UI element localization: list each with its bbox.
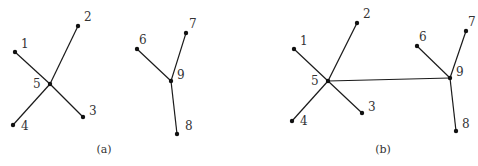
edge-2-5: [50, 26, 78, 84]
node-label: 6: [139, 33, 147, 47]
panel-caption: (a): [96, 143, 111, 156]
node-5: [48, 82, 52, 86]
edge-4-5: [292, 81, 328, 121]
edge-4-5: [13, 84, 50, 125]
node-label: 1: [21, 37, 29, 51]
node-4: [290, 119, 294, 123]
edge-5-9: [328, 78, 450, 81]
node-label: 8: [185, 119, 193, 133]
node-1: [292, 47, 296, 51]
edge-2-5: [328, 23, 357, 81]
edge-8-9: [171, 81, 177, 134]
node-label: 2: [84, 10, 92, 24]
edge-8-9: [450, 78, 456, 131]
node-label: 3: [368, 100, 376, 114]
node-7: [464, 29, 468, 33]
node-3: [360, 111, 364, 115]
node-2: [76, 24, 80, 28]
node-label: 7: [468, 15, 476, 29]
node-label: 1: [300, 34, 308, 48]
panel-a: 123456789(a): [11, 10, 197, 156]
edge-6-9: [137, 49, 171, 81]
node-label: 8: [462, 117, 470, 131]
node-6: [415, 44, 419, 48]
node-label: 3: [89, 104, 97, 118]
node-9: [169, 79, 173, 83]
node-1: [13, 50, 17, 54]
node-8: [175, 132, 179, 136]
node-6: [135, 47, 139, 51]
node-label: 9: [177, 68, 185, 82]
node-3: [81, 115, 85, 119]
edge-3-5: [328, 81, 362, 113]
node-8: [454, 129, 458, 133]
node-label: 9: [456, 65, 464, 79]
panel-b: 123456789(b): [290, 7, 476, 156]
panel-caption: (b): [375, 143, 391, 156]
node-9: [448, 76, 452, 80]
graph-diagram: 123456789(a) 123456789(b): [0, 0, 478, 166]
node-label: 4: [21, 119, 29, 133]
node-label: 7: [189, 17, 197, 31]
node-label: 5: [33, 77, 41, 91]
edge-6-9: [417, 46, 450, 78]
node-4: [11, 123, 15, 127]
node-2: [355, 21, 359, 25]
node-label: 2: [363, 7, 371, 21]
node-7: [184, 31, 188, 35]
edge-3-5: [50, 84, 83, 117]
node-5: [326, 79, 330, 83]
node-label: 4: [300, 114, 308, 128]
node-label: 6: [419, 30, 427, 44]
node-label: 5: [311, 74, 319, 88]
